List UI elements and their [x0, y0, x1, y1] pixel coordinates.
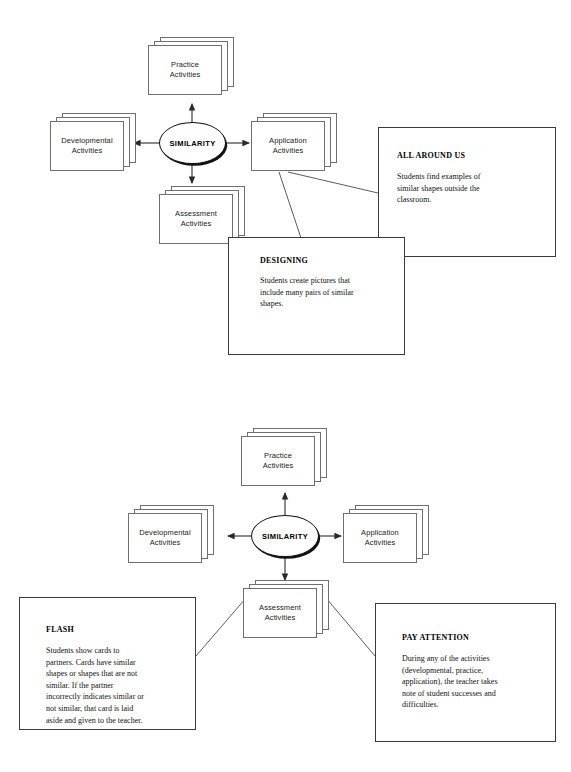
note-body-pay-attention: During any of the activities (developmen… — [402, 653, 548, 711]
card-sheet-front: Assessment Activities — [159, 194, 233, 244]
card-label-developmental: Developmental Activities — [58, 136, 115, 156]
similarity-web-diagram-bottom: Practice Activities Developmental Activi… — [0, 390, 571, 772]
card-sheet-front: Practice Activities — [241, 436, 315, 486]
note-title-flash: FLASH — [46, 625, 74, 634]
card-label-assessment: Assessment Activities — [172, 209, 220, 229]
note-body-flash: Students show cards to partners. Cards h… — [46, 645, 186, 726]
card-label-practice: Practice Activities — [167, 60, 204, 80]
card-label-developmental: Developmental Activities — [136, 528, 193, 548]
card-stack-practice[interactable]: Practice Activities — [241, 428, 327, 486]
card-sheet-front: Assessment Activities — [243, 588, 317, 638]
note-box-flash[interactable]: FLASH Students show cards to partners. C… — [19, 597, 196, 730]
note-body-all-around-us: Students find examples of similar shapes… — [397, 171, 543, 206]
hub-similarity-top[interactable]: SIMILARITY — [159, 122, 226, 164]
card-stack-developmental[interactable]: Developmental Activities — [50, 113, 136, 171]
note-box-pay-attention[interactable]: PAY ATTENTION During any of the activiti… — [375, 603, 556, 742]
card-stack-practice[interactable]: Practice Activities — [148, 37, 234, 95]
line-assessment-to-pay-attention — [326, 598, 375, 656]
diagram-page: Practice Activities Developmental Activi… — [0, 0, 571, 772]
hub-label: SIMILARITY — [262, 532, 308, 541]
card-label-assessment: Assessment Activities — [256, 603, 304, 623]
card-stack-assessment[interactable]: Assessment Activities — [243, 580, 329, 638]
card-label-application: Application Activities — [266, 136, 310, 156]
card-sheet-front: Developmental Activities — [50, 121, 124, 171]
similarity-web-diagram-top: Practice Activities Developmental Activi… — [0, 0, 571, 390]
hub-label: SIMILARITY — [170, 139, 216, 148]
note-title-all-around-us: ALL AROUND US — [397, 151, 465, 160]
card-stack-assessment[interactable]: Assessment Activities — [159, 186, 245, 244]
note-body-designing: Students create pictures that include ma… — [260, 275, 400, 310]
line-assessment-to-flash — [196, 598, 246, 656]
card-label-practice: Practice Activities — [260, 451, 297, 471]
card-label-application: Application Activities — [358, 528, 402, 548]
card-sheet-front: Application Activities — [343, 513, 417, 563]
hub-similarity-bottom[interactable]: SIMILARITY — [251, 515, 319, 557]
card-sheet-front: Practice Activities — [148, 45, 222, 95]
line-application-to-all-around-us — [288, 172, 378, 193]
note-title-pay-attention: PAY ATTENTION — [402, 633, 469, 642]
card-sheet-front: Application Activities — [251, 121, 325, 171]
card-stack-application[interactable]: Application Activities — [343, 505, 429, 563]
card-sheet-front: Developmental Activities — [128, 513, 202, 563]
note-box-designing[interactable]: DESIGNING Students create pictures that … — [228, 237, 405, 355]
card-stack-application[interactable]: Application Activities — [251, 113, 337, 171]
note-title-designing: DESIGNING — [260, 256, 308, 265]
card-stack-developmental[interactable]: Developmental Activities — [128, 505, 214, 563]
